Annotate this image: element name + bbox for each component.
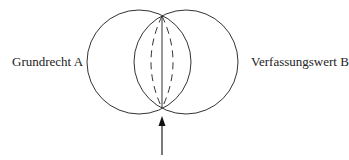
- arrow-up-icon: [159, 116, 166, 126]
- dashed-arc-left: [151, 16, 162, 108]
- circle-verfassungswert-b: [134, 10, 238, 114]
- label-grundrecht-a: Grundrecht A: [12, 54, 83, 70]
- circle-grundrecht-a: [87, 10, 191, 114]
- dashed-arc-right: [162, 16, 173, 108]
- label-verfassungswert-b: Verfassungswert B: [251, 54, 349, 70]
